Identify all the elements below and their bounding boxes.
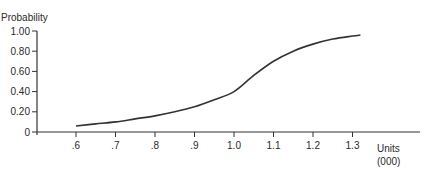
x-tick-label: 1.3 (346, 140, 360, 151)
x-axis-label-units: (000) (377, 156, 400, 167)
y-tick-label: 0.60 (11, 66, 31, 77)
x-tick-label: .8 (151, 140, 160, 151)
x-tick-label: 1.1 (267, 140, 281, 151)
y-tick-label: 1.00 (11, 26, 31, 37)
x-tick-label: 1.2 (306, 140, 320, 151)
probability-curve (76, 35, 360, 126)
probability-chart: Probability 00.200.400.600.801.00 .6.7.8… (0, 0, 431, 174)
x-tick-label: .9 (190, 140, 199, 151)
chart-canvas: Probability 00.200.400.600.801.00 .6.7.8… (0, 0, 431, 174)
x-axis-label: Units (377, 143, 400, 154)
x-tick-label: .6 (72, 140, 81, 151)
y-tick-label: 0.20 (11, 106, 31, 117)
y-tick-label: 0.40 (11, 86, 31, 97)
y-axis-label: Probability (1, 12, 48, 23)
y-tick-label: 0 (24, 127, 30, 138)
x-tick-label: 1.0 (227, 140, 241, 151)
y-axis: 00.200.400.600.801.00 (11, 26, 37, 138)
y-tick-label: 0.80 (11, 46, 31, 57)
x-tick-label: .7 (111, 140, 120, 151)
x-axis: .6.7.8.91.01.11.21.3 (37, 132, 420, 151)
